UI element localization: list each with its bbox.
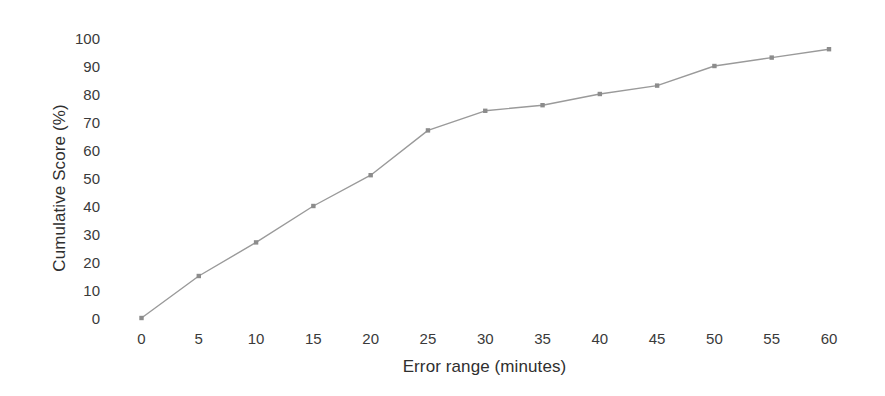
data-point-marker (770, 55, 774, 59)
data-point-marker (827, 47, 831, 51)
y-axis-title: Cumulative Score (%) (50, 38, 70, 338)
data-point-marker (368, 173, 372, 177)
data-point-marker (540, 103, 544, 107)
x-tick-label: 60 (804, 331, 854, 346)
series-line-cumulative-score (142, 49, 830, 318)
x-tick-label: 55 (747, 331, 797, 346)
x-tick-label: 30 (460, 331, 510, 346)
x-tick-label: 20 (346, 331, 396, 346)
x-tick-label: 25 (403, 331, 453, 346)
x-axis-tick-labels: 051015202530354045505560 (0, 331, 885, 351)
x-tick-label: 0 (117, 331, 167, 346)
data-point-marker (483, 109, 487, 113)
data-point-marker (139, 316, 143, 320)
data-point-marker (254, 240, 258, 244)
x-tick-label: 45 (632, 331, 682, 346)
x-tick-label: 50 (689, 331, 739, 346)
x-tick-label: 10 (231, 331, 281, 346)
data-point-marker (426, 128, 430, 132)
data-point-marker (655, 83, 659, 87)
cumulative-score-line-chart: 0102030405060708090100 05101520253035404… (0, 0, 885, 396)
data-point-marker (311, 204, 315, 208)
data-point-marker (598, 92, 602, 96)
data-point-marker (197, 274, 201, 278)
series-markers (139, 47, 831, 320)
data-point-marker (712, 64, 716, 68)
x-tick-label: 15 (288, 331, 338, 346)
x-tick-label: 5 (174, 331, 224, 346)
x-axis-title: Error range (minutes) (131, 357, 838, 377)
x-tick-label: 35 (518, 331, 568, 346)
x-tick-label: 40 (575, 331, 625, 346)
